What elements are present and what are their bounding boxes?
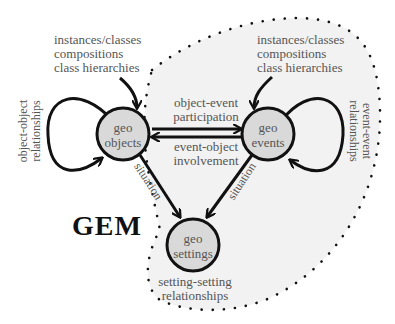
object-event-participation-label: object-event participation <box>164 96 248 124</box>
geo-settings-label-line1: geo <box>163 231 223 246</box>
geo-objects-label-line2: objects <box>93 135 153 150</box>
events-input-line3: class hierarchies <box>257 61 344 75</box>
gem-title: GEM <box>72 210 142 242</box>
setting-setting-line1: setting-setting <box>155 275 235 289</box>
objects-input-line2: compositions <box>54 47 141 61</box>
gem-diagram: geo objects geo events geo settings inst… <box>0 0 395 324</box>
geo-objects-label: geo objects <box>93 120 153 150</box>
setting-setting-line2: relationships <box>155 289 235 303</box>
event-event-relationships-label: event-event relationships <box>347 81 373 181</box>
event-object-line2: involvement <box>164 154 248 168</box>
geo-settings-label: geo settings <box>163 231 223 261</box>
object-event-line2: participation <box>164 110 248 124</box>
event-object-line1: event-object <box>164 140 248 154</box>
events-input-line2: compositions <box>257 47 344 61</box>
setting-setting-relationships-label: setting-setting relationships <box>155 275 235 303</box>
objects-input-annotation: instances/classes compositions class hie… <box>54 33 141 75</box>
geo-settings-label-line2: settings <box>163 246 223 261</box>
events-input-line1: instances/classes <box>257 33 344 47</box>
event-event-line2: relationships <box>347 81 360 181</box>
geo-objects-label-line1: geo <box>93 120 153 135</box>
event-object-involvement-label: event-object involvement <box>164 140 248 168</box>
events-input-annotation: instances/classes compositions class hie… <box>257 33 344 75</box>
objects-input-arrow <box>120 78 137 108</box>
objects-input-line3: class hierarchies <box>54 61 141 75</box>
object-object-relationships-label: object-object relationships <box>17 81 43 181</box>
objects-input-line1: instances/classes <box>54 33 141 47</box>
object-object-line2: relationships <box>30 81 43 181</box>
event-event-line1: event-event <box>360 81 373 181</box>
object-event-line1: object-event <box>164 96 248 110</box>
